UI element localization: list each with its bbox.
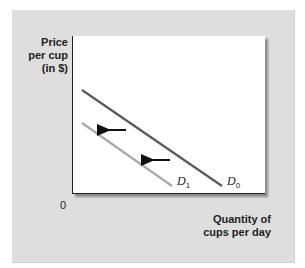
chart-svg: D0D1 bbox=[0, 0, 305, 268]
label-d0: D0 bbox=[226, 174, 241, 190]
demand-curves bbox=[82, 90, 222, 186]
curve-d1 bbox=[82, 123, 172, 186]
label-d1: D1 bbox=[176, 174, 191, 190]
